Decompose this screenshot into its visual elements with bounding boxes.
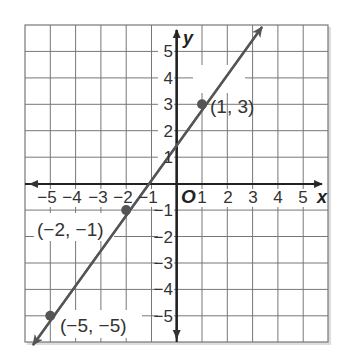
svg-text:4: 4 [273,188,282,207]
svg-text:−2: −2 [113,188,132,207]
point-neg5-neg5 [45,311,55,321]
svg-text:3: 3 [164,95,173,114]
coordinate-plane: (1, 3) (−2, −1) (−5, −5) −5 −4 −3 −2 −1 … [0,0,339,352]
svg-text:−4: −4 [154,280,173,299]
y-axis-label: y [182,28,194,48]
point-label-neg5-neg5: (−5, −5) [60,315,127,336]
svg-text:−3: −3 [154,254,173,273]
svg-text:5: 5 [298,188,307,207]
point-1-3 [197,99,207,109]
svg-text:−4: −4 [62,188,81,207]
svg-text:−5: −5 [154,307,173,326]
svg-text:−1: −1 [154,201,173,220]
svg-text:5: 5 [164,42,173,61]
svg-text:2: 2 [164,122,173,141]
point-label-neg2-neg1: (−2, −1) [37,219,104,240]
svg-text:3: 3 [248,188,257,207]
svg-text:1: 1 [164,148,173,167]
svg-text:1: 1 [197,188,206,207]
svg-text:4: 4 [164,69,173,88]
svg-text:−5: −5 [37,188,56,207]
svg-text:−3: −3 [88,188,107,207]
svg-text:2: 2 [223,188,232,207]
point-label-1-3: (1, 3) [210,96,254,117]
origin-label: O [181,186,196,207]
svg-text:−2: −2 [154,228,173,247]
x-axis-label: x [316,187,328,207]
